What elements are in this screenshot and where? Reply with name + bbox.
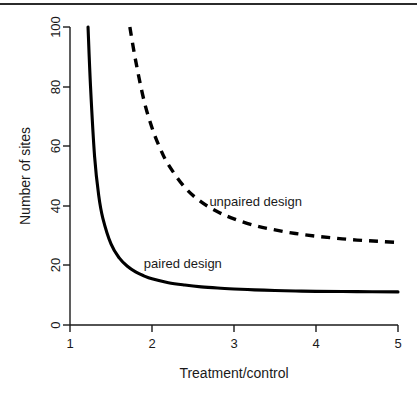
x-tick-label-2: 2: [148, 336, 155, 351]
figure-container: 0 20 40 60 80 100 1 2 3 4 5 Number of si…: [0, 0, 417, 394]
x-axis-title: Treatment/control: [179, 365, 288, 381]
x-tick-label-3: 3: [230, 336, 237, 351]
y-axis-title: Number of sites: [17, 127, 33, 225]
y-tick-label-20: 20: [48, 258, 63, 272]
x-tick-label-1: 1: [66, 336, 73, 351]
series-line-paired-design: [88, 27, 398, 292]
series-line-unpaired-design: [130, 27, 398, 242]
x-tick-label-5: 5: [394, 336, 401, 351]
chart-plot-area: 0 20 40 60 80 100 1 2 3 4 5 Number of si…: [0, 0, 417, 394]
y-tick-label-80: 80: [48, 80, 63, 94]
series-annotation-unpaired-design: unpaired design: [209, 194, 302, 209]
y-tick-label-0: 0: [48, 321, 63, 328]
series-annotation-paired-design: paired design: [144, 256, 222, 271]
x-tick-label-4: 4: [312, 336, 319, 351]
y-tick-label-100: 100: [48, 16, 63, 38]
y-tick-label-40: 40: [48, 199, 63, 213]
y-tick-label-60: 60: [48, 139, 63, 153]
